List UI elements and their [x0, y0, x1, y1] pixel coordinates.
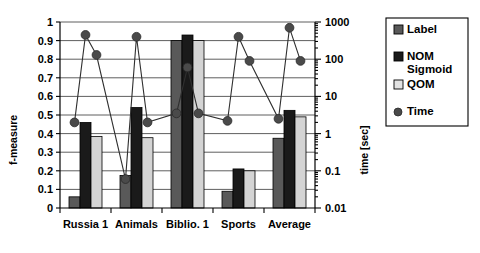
legend-label: Time — [407, 105, 434, 117]
bar — [80, 122, 91, 208]
left-tick-label: 0.6 — [38, 90, 53, 102]
category-label: Biblio. 1 — [166, 218, 209, 230]
time-data-point — [143, 118, 152, 127]
right-tick-label: 0.01 — [325, 202, 346, 214]
category-label: Average — [268, 218, 311, 230]
chart-container: 00.10.20.30.40.50.60.70.80.91 0.010.1110… — [0, 0, 480, 253]
bar — [193, 41, 204, 208]
x-axis-ticks-group — [60, 208, 315, 213]
time-data-point — [234, 32, 243, 41]
legend-swatch-square — [394, 80, 403, 89]
left-tick-label: 1 — [47, 16, 53, 28]
time-data-point — [70, 118, 79, 127]
category-label: Animals — [115, 218, 158, 230]
right-tick-label: 100 — [325, 53, 343, 65]
time-data-point — [92, 51, 101, 60]
time-data-point — [121, 175, 130, 184]
left-tick-label: 0.4 — [38, 128, 54, 140]
bar — [182, 35, 193, 208]
bar — [222, 191, 233, 208]
bar — [284, 110, 295, 208]
bar — [295, 117, 306, 208]
bar — [171, 41, 182, 208]
bar — [91, 136, 102, 208]
bar — [69, 197, 80, 208]
f-measure-time-chart: 00.10.20.30.40.50.60.70.80.91 0.010.1110… — [0, 0, 480, 253]
left-tick-label: 0.5 — [38, 109, 53, 121]
right-tick-label: 1 — [325, 128, 331, 140]
bar — [244, 171, 255, 208]
bar — [131, 108, 142, 208]
category-label: Sports — [221, 218, 256, 230]
legend-label: QOM — [407, 78, 434, 90]
time-data-point — [223, 116, 232, 125]
time-data-point — [274, 114, 283, 123]
legend-swatch-circle — [394, 108, 402, 116]
legend-swatch-square — [394, 25, 403, 34]
left-tick-label: 0.8 — [38, 53, 53, 65]
category-label: Russia 1 — [63, 218, 108, 230]
left-tick-label: 0.1 — [38, 183, 53, 195]
legend-swatch-square — [394, 52, 403, 61]
left-tick-label: 0.2 — [38, 165, 53, 177]
left-tick-label: 0.3 — [38, 146, 53, 158]
left-tick-label: 0.7 — [38, 72, 53, 84]
bar — [142, 138, 153, 208]
time-data-point — [245, 57, 254, 66]
legend-label: NOM — [407, 50, 434, 62]
time-data-point — [81, 31, 90, 40]
time-data-point — [172, 109, 181, 118]
left-tick-label: 0 — [47, 202, 53, 214]
time-data-point — [132, 32, 141, 41]
time-data-point — [296, 57, 305, 66]
time-data-point — [194, 109, 203, 118]
legend-label: Label — [407, 23, 437, 35]
right-tick-label: 10 — [325, 90, 337, 102]
left-axis-tick-labels-group: 00.10.20.30.40.50.60.70.80.91 — [38, 16, 54, 214]
right-axis-title: time [sec] — [358, 125, 370, 174]
bar — [273, 138, 284, 208]
right-tick-label: 1000 — [325, 16, 349, 28]
bar — [233, 169, 244, 208]
left-axis-title: f-measure — [7, 115, 19, 165]
right-tick-label: 0.1 — [325, 165, 340, 177]
time-data-point — [285, 23, 294, 32]
right-axis-ticks-group — [315, 22, 321, 208]
category-labels-group: Russia 1AnimalsBiblio. 1SportsAverage — [63, 218, 311, 230]
legend-label-line2: Sigmoid — [407, 63, 452, 75]
left-tick-label: 0.9 — [38, 35, 53, 47]
time-data-point — [183, 63, 192, 72]
right-axis-tick-labels-group: 0.010.11101001000 — [325, 16, 349, 214]
